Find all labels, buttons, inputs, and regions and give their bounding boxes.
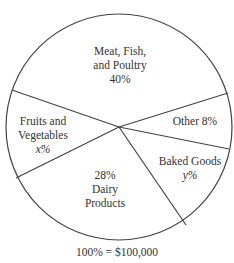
- slice-label-meat: Meat, Fish, and Poultry 40%: [70, 44, 170, 86]
- slice-label-other: Other 8%: [160, 114, 230, 128]
- slice-label-dairy: 28% Dairy Products: [60, 168, 150, 210]
- divider-other-baked: [119, 127, 229, 149]
- slice-label-baked: Baked Goods y%: [150, 154, 230, 182]
- chart-footer: 100% = $100,000: [0, 246, 234, 258]
- slice-label-fruits: Fruits and Vegetables x%: [8, 114, 78, 156]
